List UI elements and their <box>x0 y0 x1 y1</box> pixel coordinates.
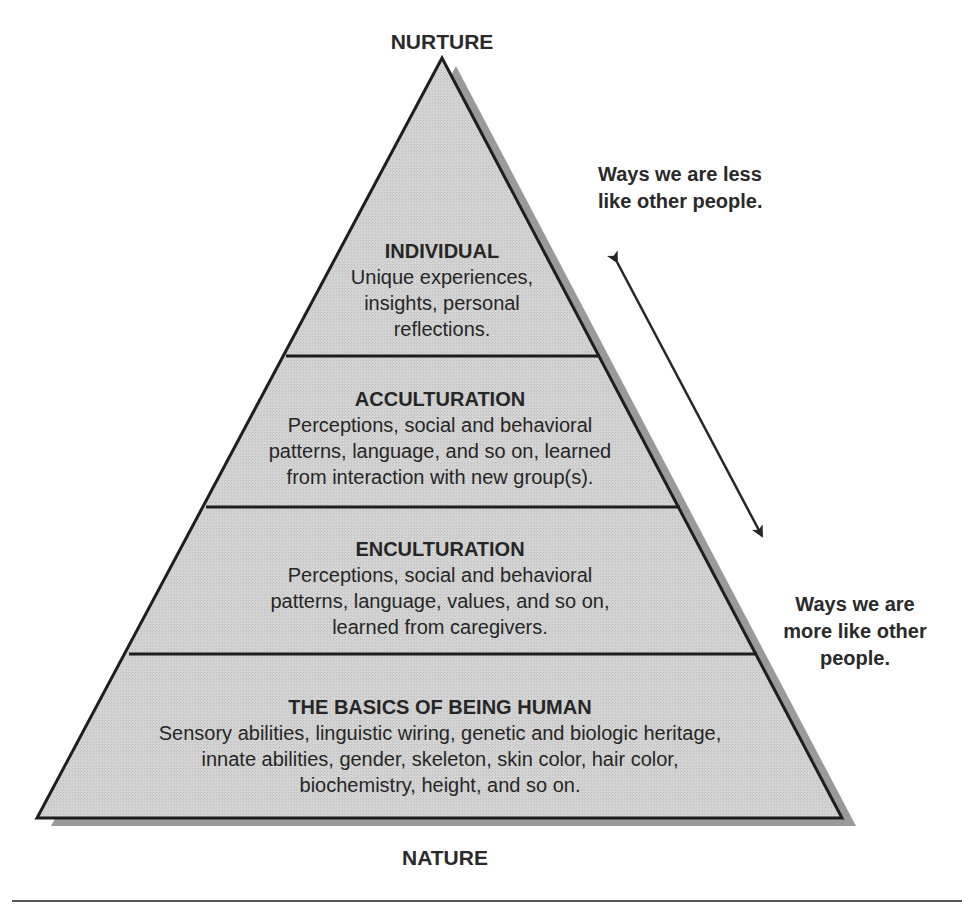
level-line: from interaction with new group(s). <box>230 464 650 490</box>
level-line: Perceptions, social and behavioral <box>230 412 650 438</box>
caption-divider <box>12 900 962 902</box>
level-acculturation: ACCULTURATION Perceptions, social and be… <box>230 386 650 490</box>
level-line: learned from caregivers. <box>210 614 670 640</box>
level-line: Unique experiences, <box>292 264 592 290</box>
note-more-like-others: Ways we are more like other people. <box>755 591 955 672</box>
note-less-like-others: Ways we are less like other people. <box>598 161 828 215</box>
note-more-line-2: more like other <box>755 618 955 645</box>
level-individual: INDIVIDUAL Unique experiences, insights,… <box>292 238 592 342</box>
label-nurture: NURTURE <box>372 30 512 54</box>
level-line: insights, personal <box>292 290 592 316</box>
level-basics-of-being-human: THE BASICS OF BEING HUMAN Sensory abilit… <box>80 694 800 798</box>
label-nature: NATURE <box>380 846 510 870</box>
level-line: Sensory abilities, linguistic wiring, ge… <box>80 720 800 746</box>
level-heading: ACCULTURATION <box>230 386 650 412</box>
level-line: reflections. <box>292 316 592 342</box>
level-heading: INDIVIDUAL <box>292 238 592 264</box>
level-heading: THE BASICS OF BEING HUMAN <box>80 694 800 720</box>
level-line: patterns, language, values, and so on, <box>210 588 670 614</box>
level-heading: ENCULTURATION <box>210 536 670 562</box>
level-line: Perceptions, social and behavioral <box>210 562 670 588</box>
note-more-line-3: people. <box>755 645 955 672</box>
level-enculturation: ENCULTURATION Perceptions, social and be… <box>210 536 670 640</box>
level-line: biochemistry, height, and so on. <box>80 772 800 798</box>
note-more-line-1: Ways we are <box>755 591 955 618</box>
level-line: patterns, language, and so on, learned <box>230 438 650 464</box>
note-less-line-2: like other people. <box>598 188 828 215</box>
level-line: innate abilities, gender, skeleton, skin… <box>80 746 800 772</box>
note-less-line-1: Ways we are less <box>598 161 828 188</box>
